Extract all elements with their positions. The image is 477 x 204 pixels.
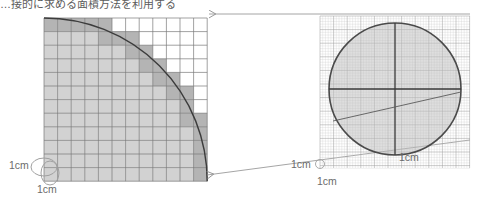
grid-cell [139,86,153,100]
grid-cell [71,168,85,182]
grid-cell [139,59,153,73]
grid-cell [126,59,140,73]
grid-cell [126,100,140,114]
grid-cell [112,59,126,73]
grid-cell [44,127,58,141]
grid-cell [153,127,167,141]
grid-cell [139,140,153,154]
grid-cell [139,100,153,114]
grid-cell [58,127,72,141]
grid-cell [180,154,194,168]
grid-cell [85,140,99,154]
grid-cell [166,140,180,154]
grid-cell [85,45,99,59]
grid-cell [112,127,126,141]
grid-cell [112,86,126,100]
grid-cell [98,100,112,114]
grid-cell [166,72,180,86]
grid-cell [180,113,194,127]
grid-cell [126,113,140,127]
grid-cell [98,86,112,100]
grid-cell [44,59,58,73]
grid-cell [139,72,153,86]
grid-cell [126,168,140,182]
grid-cell [58,154,72,168]
grid-cell [126,154,140,168]
grid-cell [71,86,85,100]
grid-cell [126,140,140,154]
grid-cell [58,140,72,154]
grid-cell [85,86,99,100]
grid-cell [153,72,167,86]
grid-cell [112,45,126,59]
grid-cell [58,168,72,182]
grid-cell [139,127,153,141]
grid-cell [44,45,58,59]
grid-cell [98,59,112,73]
grid-cell [153,100,167,114]
grid-cell [44,100,58,114]
grid-cell [166,154,180,168]
grid-cell [71,113,85,127]
grid-cell [153,140,167,154]
grid-cell [153,154,167,168]
grid-cell [112,140,126,154]
grid-cell [85,72,99,86]
figure-root: …接的に求める面積方法を利用する [0,0,477,204]
grid-cell [85,32,99,46]
grid-cell [44,32,58,46]
grid-cell [58,72,72,86]
grid-cell [126,72,140,86]
grid-cell [85,154,99,168]
grid-cell [166,113,180,127]
grid-cell [112,113,126,127]
right-panel [320,16,470,168]
grid-cell [98,127,112,141]
grid-cell [85,59,99,73]
grid-cell [71,59,85,73]
grid-cell [180,127,194,141]
grid-cell [98,154,112,168]
grid-cell [98,140,112,154]
grid-cell [44,18,58,32]
grid-cell [71,45,85,59]
grid-cell [85,127,99,141]
grid-cell [194,168,208,182]
grid-cell [71,72,85,86]
grid-cell [126,127,140,141]
grid-cell [98,168,112,182]
grid-cell [58,100,72,114]
grid-cell [112,154,126,168]
grid-cell [71,100,85,114]
grid-cell [166,127,180,141]
right-scale-label-below: 1cm [317,175,337,187]
grid-cell [71,127,85,141]
grid-cell [112,72,126,86]
grid-cell [58,113,72,127]
grid-cell [139,45,153,59]
left-scale-label-below: 1cm [37,183,57,195]
left-panel [44,18,207,181]
grid-cell [98,32,112,46]
grid-cell [58,86,72,100]
grid-cell [166,168,180,182]
grid-cell [85,168,99,182]
figure-canvas [0,0,477,204]
connector-scale-label: 1cm [399,151,419,163]
grid-cell [139,168,153,182]
grid-cell [153,168,167,182]
grid-cell [44,72,58,86]
grid-cell [112,168,126,182]
grid-cell [98,113,112,127]
grid-cell [71,32,85,46]
grid-cell [126,86,140,100]
grid-cell [44,86,58,100]
grid-cell [58,32,72,46]
grid-cell [139,113,153,127]
grid-cell [85,113,99,127]
grid-cell [98,45,112,59]
grid-cell [71,154,85,168]
grid-cell [44,140,58,154]
grid-cell [85,100,99,114]
grid-cell [71,140,85,154]
